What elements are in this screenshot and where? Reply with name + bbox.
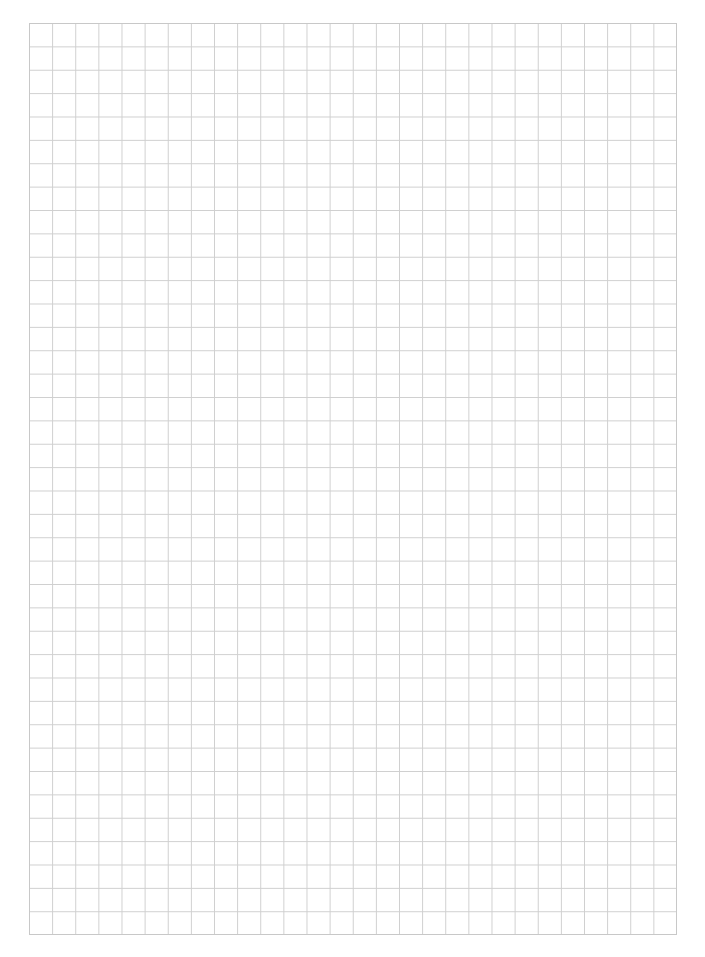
- grid-paper: [29, 23, 677, 935]
